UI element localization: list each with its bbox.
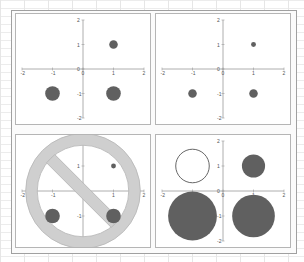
x-tick-label: -2 bbox=[161, 70, 166, 76]
axes: -2-1012210-1-2 bbox=[161, 17, 286, 121]
y-tick-label: -2 bbox=[217, 115, 222, 121]
chart-panel-bottom-left[interactable]: -2-1012210-1-2 bbox=[15, 134, 151, 248]
chart-panel-top-left[interactable]: -2-1012210-1-2 bbox=[15, 13, 151, 125]
data-point-marker[interactable] bbox=[106, 209, 121, 224]
data-point-marker[interactable] bbox=[109, 40, 118, 49]
y-tick-label: -1 bbox=[217, 91, 222, 97]
scatter-plot: -2-1012210-1-2 bbox=[156, 135, 290, 247]
x-tick-label: -1 bbox=[51, 192, 56, 198]
x-tick-label: 1 bbox=[112, 192, 115, 198]
x-tick-label: -1 bbox=[51, 70, 56, 76]
data-point-marker[interactable] bbox=[168, 192, 217, 241]
scatter-plot: -2-1012210-1-2 bbox=[16, 14, 150, 124]
y-tick-label: 0 bbox=[77, 66, 80, 72]
data-point-marker[interactable] bbox=[45, 86, 60, 101]
x-tick-label: -2 bbox=[21, 70, 26, 76]
y-tick-label: 0 bbox=[217, 66, 220, 72]
y-tick-label: 2 bbox=[77, 17, 80, 23]
y-tick-label: 1 bbox=[77, 42, 80, 48]
data-point-marker[interactable] bbox=[232, 195, 275, 238]
data-point-marker[interactable] bbox=[176, 149, 210, 183]
y-tick-label: 2 bbox=[217, 17, 220, 23]
data-point-marker[interactable] bbox=[106, 86, 121, 101]
x-tick-label: 0 bbox=[222, 192, 225, 198]
y-tick-label: 2 bbox=[217, 138, 220, 144]
scatter-plot: -2-1012210-1-2 bbox=[16, 135, 150, 247]
x-tick-label: -1 bbox=[191, 70, 196, 76]
scatter-plot: -2-1012210-1-2 bbox=[156, 14, 290, 124]
y-tick-label: -1 bbox=[77, 91, 82, 97]
y-tick-label: 1 bbox=[217, 163, 220, 169]
data-point-marker[interactable] bbox=[249, 89, 258, 98]
x-tick-label: 2 bbox=[283, 192, 286, 198]
data-point-marker[interactable] bbox=[45, 209, 60, 224]
axes: -2-1012210-1-2 bbox=[21, 17, 146, 121]
x-tick-label: -2 bbox=[161, 192, 166, 198]
x-tick-label: 1 bbox=[112, 70, 115, 76]
y-tick-label: -1 bbox=[217, 213, 222, 219]
y-tick-label: -2 bbox=[217, 238, 222, 244]
x-tick-label: 2 bbox=[283, 70, 286, 76]
y-tick-label: 1 bbox=[77, 163, 80, 169]
chart-panel-bottom-right[interactable]: -2-1012210-1-2 bbox=[155, 134, 291, 248]
x-tick-label: 0 bbox=[82, 70, 85, 76]
y-tick-label: -1 bbox=[77, 213, 82, 219]
y-tick-label: 0 bbox=[217, 188, 220, 194]
data-point-marker[interactable] bbox=[251, 42, 256, 47]
x-tick-label: 0 bbox=[222, 70, 225, 76]
x-tick-label: 2 bbox=[143, 192, 146, 198]
x-tick-label: 1 bbox=[252, 70, 255, 76]
y-tick-label: -2 bbox=[77, 115, 82, 121]
x-tick-label: -2 bbox=[21, 192, 26, 198]
y-tick-label: 1 bbox=[217, 42, 220, 48]
data-point-marker[interactable] bbox=[111, 164, 116, 169]
data-point-marker[interactable] bbox=[188, 89, 197, 98]
x-tick-label: 2 bbox=[143, 70, 146, 76]
data-point-marker[interactable] bbox=[242, 154, 265, 177]
chart-panel-top-right[interactable]: -2-1012210-1-2 bbox=[155, 13, 291, 125]
